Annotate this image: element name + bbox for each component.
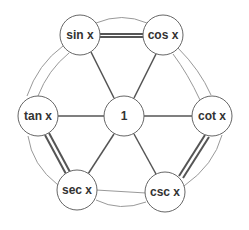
edge-cot-csc-a bbox=[179, 135, 205, 176]
node-sec: sec x bbox=[57, 170, 97, 210]
node-label: tan x bbox=[24, 109, 52, 123]
node-center: 1 bbox=[104, 96, 144, 136]
spoke-sin bbox=[91, 52, 114, 98]
spoke-cos bbox=[134, 54, 156, 98]
inner-cos-cot bbox=[173, 54, 200, 100]
node-cot: cot x bbox=[192, 96, 232, 136]
edge-tan-sec-a bbox=[45, 135, 66, 174]
node-cos: cos x bbox=[143, 15, 183, 55]
inner-sin-tan bbox=[38, 53, 69, 96]
nodes: sin x cos x tan x 1 cot x sec x csc x bbox=[18, 15, 232, 212]
node-label: sec x bbox=[62, 183, 92, 197]
trig-hexagon-diagram: sin x cos x tan x 1 cot x sec x csc x bbox=[0, 0, 249, 230]
node-csc: csc x bbox=[145, 172, 185, 212]
node-label: csc x bbox=[150, 185, 180, 199]
edge-tan-sec-b bbox=[49, 133, 70, 172]
node-label: 1 bbox=[121, 109, 128, 123]
node-label: sin x bbox=[66, 28, 94, 42]
node-label: cot x bbox=[198, 109, 226, 123]
node-label: cos x bbox=[148, 28, 179, 42]
inner-sec-csc bbox=[96, 190, 146, 193]
spoke-sec bbox=[88, 134, 114, 174]
spoke-csc bbox=[134, 134, 156, 174]
node-sin: sin x bbox=[60, 15, 100, 55]
edge-cot-csc-b bbox=[183, 137, 209, 178]
node-tan: tan x bbox=[18, 96, 58, 136]
arc-sin-tan bbox=[27, 46, 63, 96]
arc-sec-csc bbox=[96, 200, 146, 207]
arc-sin-cos bbox=[96, 18, 147, 24]
